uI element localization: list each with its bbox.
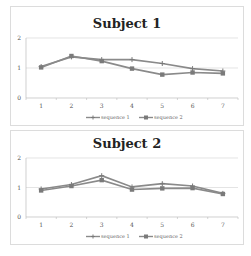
data-point-square <box>100 59 104 63</box>
legend-label: sequence 2 <box>154 233 183 240</box>
plot-area: 0121234567sequence 1sequence 2 <box>11 131 245 246</box>
data-point-square <box>190 186 194 190</box>
x-tick-label: 1 <box>39 102 43 109</box>
data-point-square <box>100 178 104 182</box>
data-point-square <box>160 72 164 76</box>
x-tick-label: 5 <box>160 221 164 228</box>
data-point-square <box>221 192 225 196</box>
x-tick-label: 6 <box>191 102 195 109</box>
data-point-square <box>190 70 194 74</box>
x-tick-label: 2 <box>70 221 74 228</box>
y-tick-label: 1 <box>17 184 21 191</box>
x-tick-label: 3 <box>100 102 104 109</box>
data-point-square <box>130 187 134 191</box>
y-tick-label: 0 <box>17 94 21 101</box>
legend-label: sequence 1 <box>101 233 130 240</box>
x-tick-label: 3 <box>100 221 104 228</box>
x-tick-label: 1 <box>39 221 43 228</box>
x-tick-label: 2 <box>70 102 74 109</box>
y-tick-label: 2 <box>17 34 21 41</box>
chart-subject-1: Subject 1 0121234567sequence 1sequence 2 <box>10 6 244 126</box>
x-tick-label: 5 <box>160 102 164 109</box>
x-tick-label: 6 <box>191 221 195 228</box>
y-tick-label: 1 <box>17 64 21 71</box>
data-point-square <box>130 66 134 70</box>
x-tick-label: 7 <box>221 221 225 228</box>
legend-square-icon <box>144 235 148 239</box>
data-point-plus <box>160 181 165 186</box>
data-point-square <box>39 65 43 69</box>
y-tick-label: 2 <box>17 154 21 161</box>
legend-plus-icon <box>91 116 95 120</box>
x-tick-label: 7 <box>221 102 225 109</box>
data-point-square <box>39 188 43 192</box>
legend-label: sequence 2 <box>154 114 183 121</box>
x-tick-label: 4 <box>130 102 134 109</box>
data-point-plus <box>130 57 135 62</box>
data-point-square <box>160 186 164 190</box>
y-tick-label: 0 <box>17 213 21 220</box>
chart-subject-2: Subject 2 0121234567sequence 1sequence 2 <box>10 130 244 245</box>
data-point-plus <box>99 173 104 178</box>
legend-plus-icon <box>91 235 95 239</box>
plot-area: 0121234567sequence 1sequence 2 <box>11 7 245 127</box>
data-point-plus <box>160 61 165 66</box>
legend-square-icon <box>144 116 148 120</box>
legend-label: sequence 1 <box>101 114 130 121</box>
x-tick-label: 4 <box>130 221 134 228</box>
data-point-square <box>69 54 73 58</box>
data-point-square <box>221 71 225 75</box>
data-point-square <box>69 184 73 188</box>
